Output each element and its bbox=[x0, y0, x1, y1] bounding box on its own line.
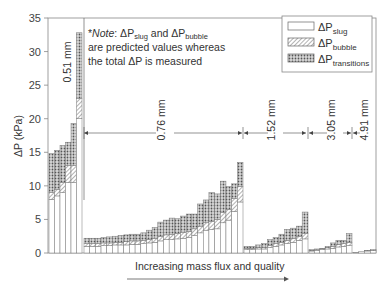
bar-segment-transitions bbox=[124, 235, 130, 242]
bar-segment-slug bbox=[220, 223, 226, 253]
bar-segment-slug bbox=[186, 238, 192, 253]
bar-segment-bubble bbox=[347, 242, 352, 245]
bar-segment-transitions bbox=[164, 220, 170, 235]
bar-segment-bubble bbox=[112, 242, 118, 245]
bar-segment-bubble bbox=[49, 193, 55, 200]
legend-swatch-transitions bbox=[288, 54, 314, 62]
bar-segment-bubble bbox=[169, 234, 175, 239]
bar-segment-slug bbox=[353, 252, 359, 253]
bar-segment-transitions bbox=[135, 234, 141, 241]
bar-segment-bubble bbox=[267, 246, 273, 248]
bar-segment-slug bbox=[55, 196, 61, 253]
note-annotation: *Note: ΔPslug and ΔPbubble are predicted… bbox=[88, 27, 225, 67]
bar-segment-slug bbox=[285, 244, 291, 253]
group-label: 0.76 mm bbox=[155, 99, 167, 140]
bar-segment-transitions bbox=[320, 248, 325, 249]
bar-segment-slug bbox=[90, 246, 96, 253]
bar-segment-bubble bbox=[203, 223, 209, 230]
group-label: 1.52 mm bbox=[265, 99, 277, 140]
y-tick-label: 25 bbox=[29, 79, 41, 91]
bar-segment-transitions bbox=[192, 214, 198, 229]
x-axis-annotation: Increasing mass flux and quality bbox=[127, 260, 289, 282]
bar-segment-bubble bbox=[215, 219, 221, 228]
bar-segment-transitions bbox=[215, 194, 221, 220]
bar-segment-slug bbox=[95, 246, 101, 253]
bar-segment-bubble bbox=[296, 236, 302, 240]
bar-segment-slug bbox=[302, 239, 308, 253]
bar-segment-bubble bbox=[226, 209, 232, 220]
bar-segment-bubble bbox=[90, 244, 96, 247]
bar-segment-slug bbox=[101, 246, 107, 253]
bar-segment-transitions bbox=[141, 233, 147, 240]
bar-segment-bubble bbox=[331, 246, 336, 248]
bar-segment-slug bbox=[336, 247, 341, 253]
bar-segment-bubble bbox=[302, 234, 308, 239]
bar-segment-slug bbox=[107, 246, 113, 253]
bar-segment-slug bbox=[71, 183, 77, 254]
bar-segment-transitions bbox=[336, 240, 341, 244]
bar-segment-transitions bbox=[256, 245, 262, 248]
bar-segment-bubble bbox=[186, 232, 192, 238]
bar-segment-transitions bbox=[146, 230, 152, 239]
bar-segment-bubble bbox=[101, 243, 107, 246]
bar-segment-transitions bbox=[250, 246, 256, 248]
bar-segment-slug bbox=[169, 240, 175, 253]
bar-segment-bubble bbox=[60, 183, 66, 193]
bar-segment-transitions bbox=[95, 238, 101, 243]
bar-segment-transitions bbox=[203, 200, 209, 223]
bar-segment-transitions bbox=[107, 237, 113, 243]
bar-segment-transitions bbox=[296, 226, 302, 236]
bar-segment-slug bbox=[129, 244, 135, 253]
bar-segment-slug bbox=[175, 239, 181, 253]
legend-swatch-slug bbox=[288, 22, 314, 30]
bar-segment-bubble bbox=[192, 229, 198, 236]
bar-segment-slug bbox=[359, 252, 365, 253]
bar-segment-slug bbox=[365, 251, 371, 253]
bar-segment-transitions bbox=[152, 227, 158, 238]
bar-segment-slug bbox=[244, 250, 250, 253]
bar-segment-transitions bbox=[365, 250, 371, 251]
bar-segment-bubble bbox=[107, 243, 113, 246]
bar-segment-slug bbox=[152, 242, 158, 253]
bar-segment-slug bbox=[325, 249, 330, 253]
bar-segment-bubble bbox=[95, 244, 101, 247]
bar-segment-slug bbox=[261, 249, 267, 253]
bar-segment-transitions bbox=[49, 154, 55, 193]
bar-segment-slug bbox=[370, 250, 376, 253]
bar-segment-slug bbox=[49, 199, 55, 253]
y-axis: 05101520253035 bbox=[29, 12, 48, 259]
bar-segment-slug bbox=[341, 246, 346, 253]
bar-segment-bubble bbox=[279, 242, 285, 245]
bar-segment-bubble bbox=[220, 213, 226, 223]
bar-segment-transitions bbox=[331, 243, 336, 246]
bar-segment-transitions bbox=[84, 238, 90, 243]
bar-segment-transitions bbox=[66, 142, 72, 166]
bar-segment-slug bbox=[296, 240, 302, 253]
bar-segment-slug bbox=[237, 202, 243, 253]
bar-segment-slug bbox=[279, 245, 285, 253]
bar-segment-transitions bbox=[101, 238, 107, 243]
bar-segment-transitions bbox=[60, 146, 66, 183]
bar-segment-transitions bbox=[77, 33, 83, 99]
bar-segment-transitions bbox=[175, 219, 181, 234]
bar-segment-bubble bbox=[336, 244, 341, 247]
bar-segment-transitions bbox=[226, 187, 232, 210]
bar-segment-transitions bbox=[237, 162, 243, 186]
y-tick-label: 10 bbox=[29, 180, 41, 192]
bar-segment-slug bbox=[256, 249, 262, 253]
bar-segment-slug bbox=[209, 230, 215, 254]
bar-segment-transitions bbox=[261, 244, 267, 248]
y-tick-label: 30 bbox=[29, 46, 41, 58]
bar-segment-bubble bbox=[285, 240, 291, 243]
bar-segment-transitions bbox=[112, 236, 118, 242]
bar-segment-slug bbox=[347, 246, 352, 253]
bar-segment-slug bbox=[66, 183, 72, 254]
bar-segment-transitions bbox=[158, 222, 164, 236]
legend-swatch-bubble bbox=[288, 38, 314, 46]
bar-segment-bubble bbox=[181, 232, 187, 238]
bar-segment-bubble bbox=[71, 166, 77, 183]
legend-label-bubble: ΔP bbox=[318, 37, 333, 49]
bar-segment-slug bbox=[124, 245, 130, 253]
bar-segment-slug bbox=[158, 241, 164, 253]
bar-segment-transitions bbox=[279, 234, 285, 242]
